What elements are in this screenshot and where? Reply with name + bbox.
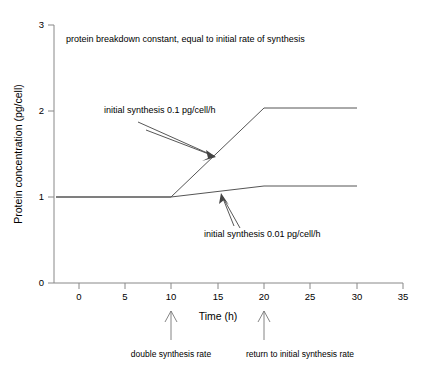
- x-tick-label-10: 10: [166, 291, 177, 302]
- x-axis-ticks: [79, 283, 403, 289]
- chart-canvas: 0 1 2 3 Protein concentration (pg/cell) …: [0, 0, 428, 380]
- lower-annotation-label: initial synthesis 0.01 pg/cell/h: [204, 229, 321, 239]
- x-tick-label-5: 5: [122, 291, 127, 302]
- axis-frame: [54, 25, 403, 283]
- protein-concentration-chart: 0 1 2 3 Protein concentration (pg/cell) …: [0, 0, 428, 380]
- x-tick-label-25: 25: [305, 291, 316, 302]
- chart-title: protein breakdown constant, equal to ini…: [66, 34, 305, 44]
- y-tick-label-3: 3: [39, 19, 44, 30]
- x-tick-label-15: 15: [213, 291, 224, 302]
- y-tick-label-1: 1: [39, 191, 44, 202]
- y-tick-label-2: 2: [39, 105, 44, 116]
- y-axis-title: Protein concentration (pg/cell): [12, 84, 24, 224]
- x-tick-label-0: 0: [76, 291, 81, 302]
- series-line-low-synthesis: [56, 186, 357, 197]
- event-caption-return-rate: return to initial synthesis rate: [246, 349, 354, 359]
- y-tick-label-0: 0: [39, 277, 44, 288]
- x-tick-label-30: 30: [352, 291, 363, 302]
- lower-annotation-arrow: [219, 193, 240, 228]
- event-marker-arrow-20: [258, 311, 270, 340]
- x-axis-title: Time (h): [199, 310, 238, 322]
- y-axis-ticks: [48, 25, 54, 283]
- x-tick-label-35: 35: [398, 291, 409, 302]
- upper-annotation-label: initial synthesis 0.1 pg/cell/h: [104, 105, 216, 115]
- event-caption-double-rate: double synthesis rate: [131, 349, 212, 359]
- upper-annotation-arrow: [138, 122, 216, 161]
- x-tick-label-20: 20: [259, 291, 270, 302]
- event-marker-arrow-10: [165, 311, 177, 340]
